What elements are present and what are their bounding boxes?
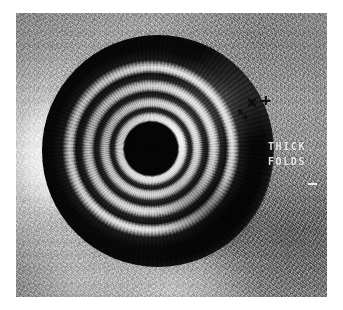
scale-tick-mark <box>308 183 317 185</box>
ultrasound-frame: × + × + THICK FOLDS <box>16 13 327 297</box>
annotation-label-folds: FOLDS <box>268 154 306 169</box>
caliper-marker-plus-large: + <box>260 93 272 107</box>
caliper-marker-x-large: × <box>246 95 258 109</box>
acoustic-shadow <box>166 181 296 291</box>
caliper-marker-plus-small: + <box>242 114 249 122</box>
ultrasound-figure: × + × + THICK FOLDS <box>0 0 343 310</box>
annotation-label-thick: THICK <box>268 139 306 154</box>
